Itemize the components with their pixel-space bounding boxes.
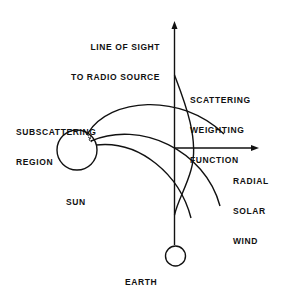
earth-circle [166, 246, 186, 266]
sun-label: SUN [66, 177, 86, 217]
subscattering-region-label: SUBSCATTERING REGION [16, 107, 96, 177]
radial-solar-wind-label: RADIAL SOLAR WIND [233, 156, 269, 256]
earth-label: EARTH [125, 257, 157, 289]
line-of-sight-label: LINE OF SIGHT TO RADIO SOURCE [71, 22, 160, 92]
line-of-sight-arrowhead [172, 21, 178, 29]
solar-wind-arrowhead [251, 145, 259, 151]
